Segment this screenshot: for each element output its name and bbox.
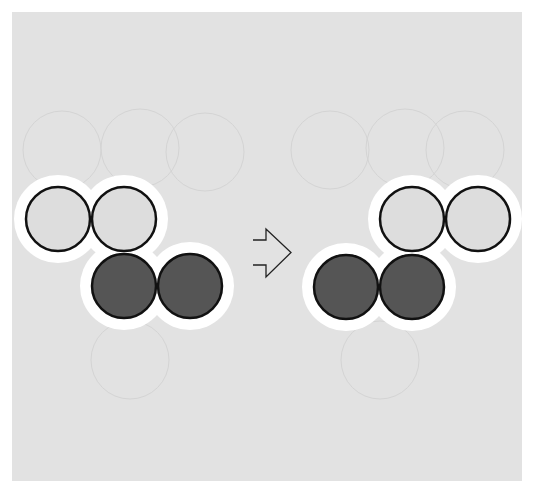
light-circle [92,187,156,251]
right-shape-after [302,175,522,331]
left-shape-before [14,175,234,330]
ghost-circle [91,321,169,399]
dark-circle [158,254,222,318]
light-circle [446,187,510,251]
ghost-circle [101,109,179,187]
ghost-circle [341,321,419,399]
ghost-circle [166,113,244,191]
transformation-diagram [0,0,535,493]
right-arrow-icon [253,229,291,277]
light-circle [380,187,444,251]
dark-circle [314,255,378,319]
dark-circle [92,254,156,318]
dark-circle [380,255,444,319]
light-circle [26,187,90,251]
ghost-circle [291,111,369,189]
ghost-circle [366,109,444,187]
